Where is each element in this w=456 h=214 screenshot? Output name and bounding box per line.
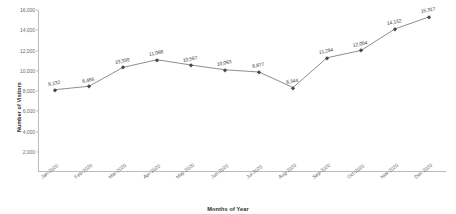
plot-area: 2,0004,0006,0008,00010,00012,00014,00016… bbox=[38, 10, 446, 172]
line-chart: Number of Visitors 2,0004,0006,0008,0001… bbox=[0, 0, 456, 214]
y-axis-tick-label: 2,000 bbox=[23, 149, 35, 155]
y-axis-tick-label: 14,000 bbox=[20, 27, 35, 33]
y-axis-tick-label: 6,000 bbox=[23, 108, 35, 114]
y-axis-tick-label: 10,000 bbox=[20, 68, 35, 74]
y-axis-tick-label: 8,000 bbox=[23, 88, 35, 94]
y-axis-tick-label: 12,000 bbox=[20, 48, 35, 54]
series-line bbox=[38, 10, 446, 172]
x-axis-title: Months of Year bbox=[0, 206, 456, 212]
y-axis-tick-label: 16,000 bbox=[20, 7, 35, 13]
y-axis-tick-label: 4,000 bbox=[23, 129, 35, 135]
